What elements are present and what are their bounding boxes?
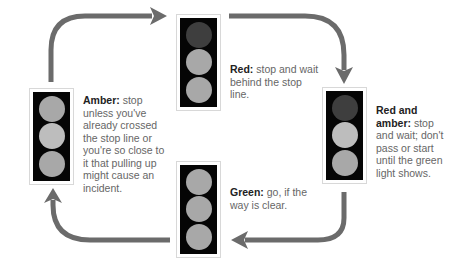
lamp-amber-on-icon [332,122,358,148]
caption-red-and-amber: Red and amber: stop and wait; don't pass… [376,104,448,179]
caption-green: Green: go, if the way is clear. [230,186,308,211]
caption-title: Green: [230,186,264,198]
caption-title: Red: [230,63,253,75]
arrow-red-to-red-amber [229,16,344,70]
traffic-light-green [176,161,221,258]
traffic-light-sequence-diagram: Red: stop and wait behind the stop line.… [0,0,456,265]
traffic-light-amber [29,88,74,185]
arrow-green-to-amber [53,200,170,240]
arrow-amber-to-red [51,16,152,82]
traffic-light-red-and-amber [322,87,367,184]
arrowhead-right-icon [150,7,167,25]
lamp-green-on-icon [186,224,212,250]
lamp-red-on-icon [332,95,358,121]
lamp-red-off-icon [186,169,212,195]
lamp-green-off-icon [186,77,212,103]
lamp-red-off-icon [39,96,65,122]
lamp-amber-off-icon [186,49,212,75]
caption-red: Red: stop and wait behind the stop line. [230,63,320,101]
caption-body: stop unless you've already crossed the s… [83,94,164,194]
light-housing [180,165,217,254]
caption-title: Amber: [83,94,120,106]
lamp-red-on-icon [186,22,212,48]
traffic-light-red [176,14,221,111]
light-housing [180,18,217,107]
lamp-amber-off-icon [186,196,212,222]
light-housing [326,91,363,180]
lamp-green-off-icon [332,150,358,176]
caption-amber: Amber: stop unless you've already crosse… [83,94,169,194]
lamp-green-off-icon [39,151,65,177]
lamp-amber-on-icon [39,123,65,149]
light-housing [33,92,70,181]
